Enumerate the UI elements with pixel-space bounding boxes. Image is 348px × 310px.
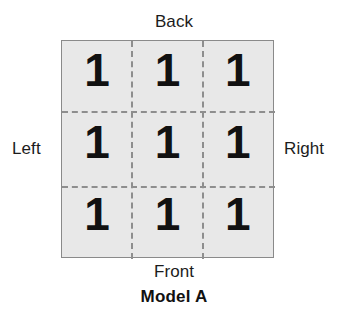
- cell-digit: 1: [225, 119, 251, 165]
- grid-cell-r2-c1: 1: [132, 185, 202, 257]
- direction-label-left: Left: [12, 139, 58, 159]
- direction-label-back: Back: [0, 12, 348, 32]
- grid-cell-r2-c0: 1: [62, 185, 132, 257]
- grid-divider-horizontal-2: [62, 186, 275, 188]
- model-a-grid-figure: Back Left Right Front 1 1 1 1 1 1: [0, 0, 348, 310]
- cell-digit: 1: [155, 47, 181, 93]
- cell-digit: 1: [84, 47, 110, 93]
- cell-digit: 1: [84, 191, 110, 237]
- grid-cell-r2-c2: 1: [203, 185, 273, 257]
- cell-digit: 1: [155, 119, 181, 165]
- direction-label-right: Right: [284, 139, 340, 159]
- grid-cell-r0-c0: 1: [62, 41, 132, 113]
- grid-divider-vertical-2: [202, 41, 204, 259]
- grid-divider-horizontal-1: [62, 111, 275, 113]
- cell-digit: 1: [225, 191, 251, 237]
- grid-divider-vertical-1: [131, 41, 133, 259]
- cell-digit: 1: [155, 191, 181, 237]
- grid-cell-r0-c1: 1: [132, 41, 202, 113]
- grid-cell-r0-c2: 1: [203, 41, 273, 113]
- cell-digit: 1: [84, 119, 110, 165]
- grid-cell-r1-c1: 1: [132, 113, 202, 185]
- grid-cells: 1 1 1 1 1 1 1 1 1: [62, 41, 273, 257]
- grid-cell-r1-c2: 1: [203, 113, 273, 185]
- grid-container: 1 1 1 1 1 1 1 1 1: [61, 40, 274, 258]
- figure-caption: Model A: [0, 287, 348, 307]
- direction-label-front: Front: [0, 262, 348, 282]
- cell-digit: 1: [225, 47, 251, 93]
- grid-cell-r1-c0: 1: [62, 113, 132, 185]
